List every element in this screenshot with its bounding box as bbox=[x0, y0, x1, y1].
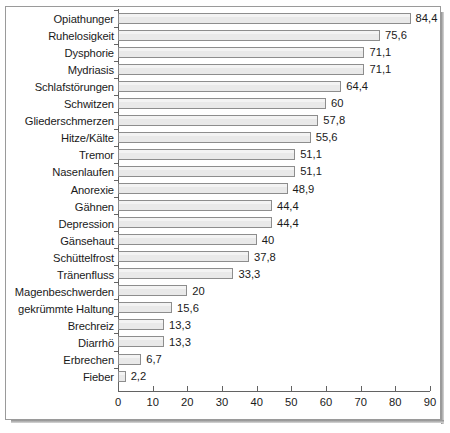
bar-value-label-14: 40 bbox=[262, 235, 274, 246]
bar-22 bbox=[118, 371, 126, 382]
bar-highlight bbox=[119, 65, 363, 68]
category-label-9: Tremor bbox=[10, 149, 114, 161]
category-label-text: Erbrechen bbox=[10, 354, 114, 366]
category-label-text: Gänsehaut bbox=[10, 235, 114, 247]
x-axis-tick-label-10: 90 bbox=[424, 396, 436, 408]
x-axis-line bbox=[118, 391, 430, 392]
y-axis-tick bbox=[114, 248, 118, 249]
y-axis-tick bbox=[114, 10, 118, 11]
bar-value-label-19: 13,3 bbox=[169, 320, 191, 331]
bar-2 bbox=[118, 30, 380, 41]
y-axis-tick bbox=[114, 129, 118, 130]
y-axis-tick bbox=[114, 61, 118, 62]
bar-value-label-10: 51,1 bbox=[300, 166, 322, 177]
category-label-text: Schüttelfrost bbox=[10, 252, 114, 264]
bar-12 bbox=[118, 200, 272, 211]
bar-value-label-18: 15,6 bbox=[177, 303, 199, 314]
bar-4 bbox=[118, 64, 364, 75]
category-label-text: Gähnen bbox=[10, 201, 114, 213]
bar-highlight bbox=[119, 14, 410, 17]
x-axis-tick bbox=[153, 386, 154, 391]
bar-3 bbox=[118, 47, 364, 58]
x-axis-tick bbox=[326, 386, 327, 391]
bar-highlight bbox=[119, 337, 163, 340]
y-axis-tick bbox=[114, 78, 118, 79]
bar-value-label-4: 71,1 bbox=[369, 64, 391, 75]
category-label-text: Gliederschmerzen bbox=[10, 115, 114, 127]
category-label-22: Fieber bbox=[10, 371, 114, 383]
bar-highlight bbox=[119, 82, 340, 85]
bar-value-label-5: 64,4 bbox=[346, 81, 368, 92]
category-label-10: Nasenlaufen bbox=[10, 166, 114, 178]
x-axis-tick-label-7: 60 bbox=[320, 396, 332, 408]
category-label-4: Mydriasis bbox=[10, 64, 114, 76]
category-label-3: Dysphorie bbox=[10, 47, 114, 59]
bar-highlight bbox=[119, 252, 248, 255]
bar-15 bbox=[118, 251, 249, 262]
bar-value-label-3: 71,1 bbox=[369, 47, 391, 58]
bar-highlight bbox=[119, 235, 256, 238]
bar-5 bbox=[118, 81, 341, 92]
y-axis-tick bbox=[114, 299, 118, 300]
bar-highlight bbox=[119, 133, 310, 136]
bar-highlight bbox=[119, 218, 271, 221]
chart-figure: Opiathunger84,4Ruhelosigkeit75,6Dysphori… bbox=[0, 0, 450, 433]
bar-highlight bbox=[119, 150, 294, 153]
bar-chart-plot-area: Opiathunger84,4Ruhelosigkeit75,6Dysphori… bbox=[0, 0, 450, 433]
category-label-text: Opiathunger bbox=[10, 13, 114, 25]
x-axis-tick bbox=[118, 386, 119, 391]
y-axis-tick bbox=[114, 351, 118, 352]
bar-1 bbox=[118, 13, 411, 24]
category-label-text: Tremor bbox=[10, 149, 114, 161]
category-label-text: Mydriasis bbox=[10, 64, 114, 76]
bar-highlight bbox=[119, 116, 317, 119]
y-axis-tick bbox=[114, 112, 118, 113]
bar-20 bbox=[118, 336, 164, 347]
y-axis-tick bbox=[114, 316, 118, 317]
y-axis-tick bbox=[114, 265, 118, 266]
x-axis-tick bbox=[187, 386, 188, 391]
x-axis-tick-label-2: 10 bbox=[146, 396, 158, 408]
bar-19 bbox=[118, 319, 164, 330]
category-label-12: Gähnen bbox=[10, 201, 114, 213]
y-axis-tick bbox=[114, 95, 118, 96]
category-label-text: Depression bbox=[10, 218, 114, 230]
category-label-14: Gänsehaut bbox=[10, 235, 114, 247]
category-label-text: Schlafstörungen bbox=[10, 81, 114, 93]
y-axis-tick bbox=[114, 368, 118, 369]
bar-value-label-17: 20 bbox=[192, 286, 204, 297]
x-axis-tick bbox=[291, 386, 292, 391]
bar-9 bbox=[118, 149, 295, 160]
bar-17 bbox=[118, 285, 187, 296]
category-label-text: Hitze/Kälte bbox=[10, 132, 114, 144]
bar-21 bbox=[118, 354, 141, 365]
bar-7 bbox=[118, 115, 318, 126]
x-axis-tick bbox=[395, 386, 396, 391]
bar-value-label-7: 57,8 bbox=[323, 115, 345, 126]
bar-highlight bbox=[119, 167, 294, 170]
y-axis-tick bbox=[114, 44, 118, 45]
bar-value-label-11: 48,9 bbox=[293, 184, 315, 195]
category-label-text: Fieber bbox=[10, 371, 114, 383]
category-label-text: gekrümmte Haltung bbox=[10, 303, 114, 315]
bar-highlight bbox=[119, 269, 232, 272]
bar-highlight bbox=[119, 201, 271, 204]
y-axis-tick bbox=[114, 197, 118, 198]
category-label-text: Magenbeschwerden bbox=[10, 286, 114, 298]
x-axis-tick-label-5: 40 bbox=[250, 396, 262, 408]
category-label-text: Ruhelosigkeit bbox=[10, 30, 114, 42]
x-axis-tick-label-9: 80 bbox=[389, 396, 401, 408]
x-axis-tick bbox=[430, 386, 431, 391]
bar-highlight bbox=[119, 31, 379, 34]
category-label-11: Anorexie bbox=[10, 184, 114, 196]
bar-highlight bbox=[119, 184, 287, 187]
bar-13 bbox=[118, 217, 272, 228]
category-label-13: Depression bbox=[10, 218, 114, 230]
bar-value-label-1: 84,4 bbox=[416, 13, 438, 24]
bar-14 bbox=[118, 234, 257, 245]
category-label-text: Nasenlaufen bbox=[10, 166, 114, 178]
x-axis-tick-label-8: 70 bbox=[354, 396, 366, 408]
category-label-20: Diarrhö bbox=[10, 337, 114, 349]
category-label-text: Schwitzen bbox=[10, 98, 114, 110]
category-label-16: Tränenfluss bbox=[10, 269, 114, 281]
